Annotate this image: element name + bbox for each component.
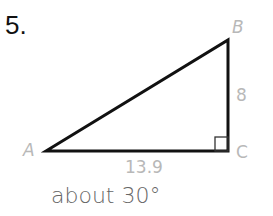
vertex-label-c: C (236, 142, 248, 162)
vertex-label-a: A (23, 140, 35, 160)
right-angle-marker-icon (215, 137, 228, 151)
side-bc-length: 8 (236, 85, 247, 105)
vertex-label-b: B (232, 17, 244, 37)
triangle-abc (46, 40, 228, 151)
answer-text: about 30° (51, 183, 160, 208)
side-ac-length: 13.9 (125, 157, 163, 177)
